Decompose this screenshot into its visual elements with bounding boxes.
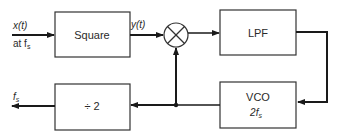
output-frequency-label: fs: [13, 91, 20, 103]
block-diagram: x(t) at fs Square y(t) LPF VCO 2fs ÷ 2 f…: [0, 0, 342, 140]
lpf-block-label: LPF: [248, 27, 268, 39]
diagram-svg: x(t) at fs Square y(t) LPF VCO 2fs ÷ 2 f…: [0, 0, 342, 140]
input-rate-label: at fs: [13, 38, 31, 50]
square-output-label: y(t): [130, 19, 145, 30]
mixer-icon: [164, 23, 188, 47]
vco-block: [220, 82, 296, 128]
square-block-label: Square: [74, 29, 109, 41]
divider-block-label: ÷ 2: [84, 100, 99, 112]
vco-block-label: VCO: [246, 91, 270, 103]
lpf-to-vco-path: [296, 32, 327, 102]
input-signal-label: x(t): [12, 20, 27, 31]
